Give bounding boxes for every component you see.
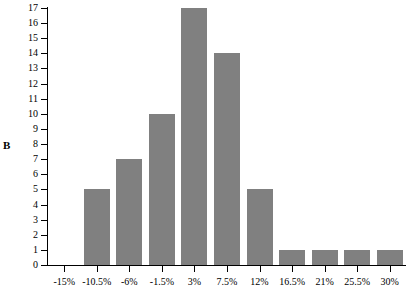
- x-axis-tick: [129, 266, 130, 272]
- x-axis-tick-label: -1.5%: [150, 276, 174, 287]
- x-axis-tick-label: 12%: [250, 276, 268, 287]
- x-axis-tick-label: 16.5%: [279, 276, 305, 287]
- x-axis-tick: [325, 266, 326, 272]
- bar: [149, 114, 175, 265]
- x-axis-tick: [390, 266, 391, 272]
- x-axis-tick: [194, 266, 195, 272]
- x-axis-tick: [260, 266, 261, 272]
- bar-series: [0, 0, 412, 266]
- x-axis-tick: [64, 266, 65, 272]
- x-axis-tick: [357, 266, 358, 272]
- x-axis-tick: [227, 266, 228, 272]
- bar: [344, 250, 370, 265]
- x-axis-tick: [97, 266, 98, 272]
- x-axis-tick: [162, 266, 163, 272]
- x-axis-tick-label: 30%: [381, 276, 399, 287]
- bar: [84, 189, 110, 265]
- x-axis-tick-label: -6%: [121, 276, 138, 287]
- bar: [279, 250, 305, 265]
- x-axis-tick-label: 3%: [188, 276, 201, 287]
- bar: [247, 189, 273, 265]
- bar: [181, 8, 207, 265]
- bar: [214, 53, 240, 265]
- bar: [116, 159, 142, 265]
- x-axis-tick-label: 21%: [315, 276, 333, 287]
- x-axis-tick-label: -10.5%: [82, 276, 111, 287]
- x-axis-tick-label: 25.5%: [344, 276, 370, 287]
- bar: [377, 250, 403, 265]
- figure-panel-b: B 01234567891011121314151617 -15%-10.5%-…: [0, 0, 412, 298]
- x-axis-tick: [292, 266, 293, 272]
- x-axis-tick-label: -15%: [53, 276, 75, 287]
- x-axis-tick-label: 7.5%: [217, 276, 238, 287]
- bar: [312, 250, 338, 265]
